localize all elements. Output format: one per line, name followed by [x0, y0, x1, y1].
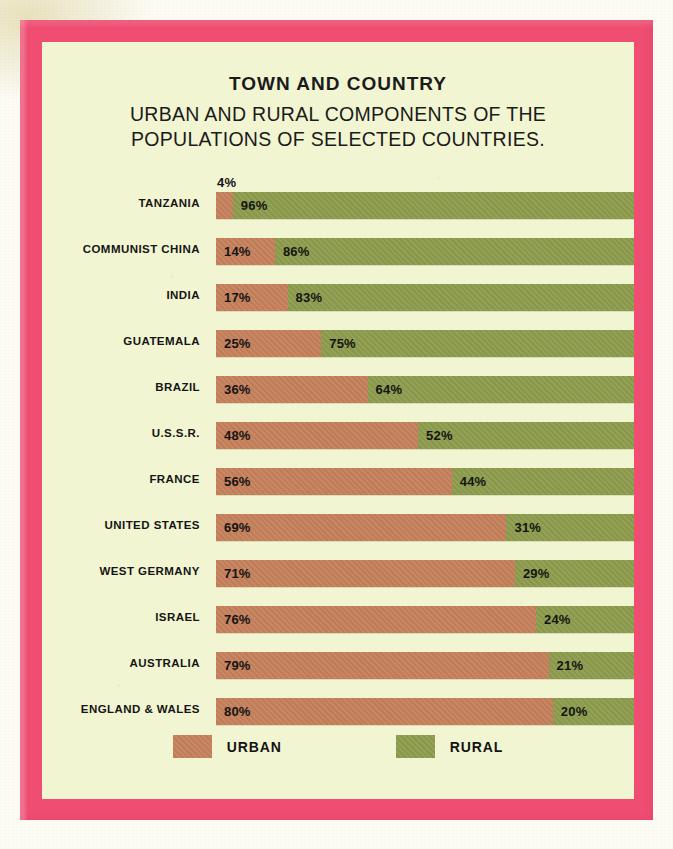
- category-label: UNITED STATES: [42, 519, 200, 531]
- bar-value-urban: 76%: [224, 612, 251, 627]
- bar-segment-urban: 4%: [216, 192, 233, 219]
- legend-swatch-rural-icon: [396, 735, 435, 758]
- bar-segment-rural: 24%: [536, 606, 634, 633]
- bar-segment-rural: 52%: [418, 422, 634, 449]
- bar-value-rural: 20%: [561, 704, 588, 719]
- chart-row: BRAZIL36%64%: [42, 367, 634, 413]
- bar-value-rural: 83%: [296, 290, 323, 305]
- bar-segment-rural: 44%: [452, 468, 634, 495]
- pink-border-frame: TOWN AND COUNTRY URBAN AND RURAL COMPONE…: [20, 20, 653, 820]
- category-label: WEST GERMANY: [42, 565, 200, 577]
- bar-value-rural: 24%: [544, 612, 571, 627]
- bar-segment-rural: 21%: [549, 652, 634, 679]
- bar-value-rural: 52%: [426, 428, 453, 443]
- bar-value-rural: 64%: [376, 382, 403, 397]
- category-label: AUSTRALIA: [42, 657, 200, 669]
- bar-value-urban: 69%: [224, 520, 251, 535]
- chart-row: TANZANIA4%96%: [42, 183, 634, 229]
- bar-segment-urban: 14%: [216, 238, 275, 265]
- chart-row: U.S.S.R.48%52%: [42, 413, 634, 459]
- bar-segment-rural: 29%: [515, 560, 634, 587]
- bar-segment-urban: 25%: [216, 330, 321, 357]
- legend-item-urban: URBAN: [173, 735, 282, 758]
- poster-page: TOWN AND COUNTRY URBAN AND RURAL COMPONE…: [0, 0, 673, 849]
- bar-value-urban: 17%: [224, 290, 251, 305]
- bar-chart: TANZANIA4%96%COMMUNIST CHINA14%86%INDIA1…: [42, 183, 634, 735]
- bar-segment-urban: 48%: [216, 422, 418, 449]
- bar-segment-rural: 20%: [553, 698, 634, 725]
- bar-segment-urban: 36%: [216, 376, 368, 403]
- category-label: COMMUNIST CHINA: [42, 243, 200, 255]
- stacked-bar: 36%64%: [216, 376, 634, 403]
- title-block: TOWN AND COUNTRY URBAN AND RURAL COMPONE…: [42, 73, 634, 152]
- chart-row: AUSTRALIA79%21%: [42, 643, 634, 689]
- bar-segment-rural: 64%: [368, 376, 634, 403]
- bar-segment-urban: 80%: [216, 698, 553, 725]
- bar-value-rural: 86%: [283, 244, 310, 259]
- bar-value-urban: 71%: [224, 566, 251, 581]
- category-label: INDIA: [42, 289, 200, 301]
- category-label: FRANCE: [42, 473, 200, 485]
- stacked-bar: 79%21%: [216, 652, 634, 679]
- legend-item-rural: RURAL: [396, 735, 504, 758]
- bar-value-rural: 44%: [460, 474, 487, 489]
- stacked-bar: 80%20%: [216, 698, 634, 725]
- legend-label-urban: URBAN: [227, 739, 282, 755]
- bar-value-urban: 48%: [224, 428, 251, 443]
- chart-row: ENGLAND & WALES80%20%: [42, 689, 634, 735]
- bar-segment-urban: 69%: [216, 514, 506, 541]
- page-title: TOWN AND COUNTRY: [42, 73, 634, 95]
- category-label: TANZANIA: [42, 197, 200, 209]
- page-subtitle-line2: POPULATIONS OF SELECTED COUNTRIES.: [42, 127, 634, 152]
- bar-segment-urban: 17%: [216, 284, 288, 311]
- chart-row: FRANCE56%44%: [42, 459, 634, 505]
- stacked-bar: 71%29%: [216, 560, 634, 587]
- bar-value-urban: 14%: [224, 244, 251, 259]
- bar-segment-urban: 56%: [216, 468, 452, 495]
- stacked-bar: 69%31%: [216, 514, 634, 541]
- stacked-bar: 76%24%: [216, 606, 634, 633]
- bar-value-rural: 29%: [523, 566, 550, 581]
- chart-row: INDIA17%83%: [42, 275, 634, 321]
- chart-row: WEST GERMANY71%29%: [42, 551, 634, 597]
- bar-segment-urban: 76%: [216, 606, 536, 633]
- chart-legend: URBAN RURAL: [42, 735, 634, 758]
- stacked-bar: 14%86%: [216, 238, 634, 265]
- bar-segment-urban: 71%: [216, 560, 515, 587]
- bar-segment-rural: 83%: [288, 284, 634, 311]
- bar-value-rural: 31%: [514, 520, 541, 535]
- bar-value-urban: 56%: [224, 474, 251, 489]
- category-label: U.S.S.R.: [42, 427, 200, 439]
- bar-value-urban: 36%: [224, 382, 251, 397]
- category-label: ISRAEL: [42, 611, 200, 623]
- category-label: ENGLAND & WALES: [42, 703, 200, 715]
- bar-segment-rural: 86%: [275, 238, 634, 265]
- page-subtitle: URBAN AND RURAL COMPONENTS OF THE POPULA…: [42, 102, 634, 152]
- bar-value-rural: 96%: [241, 198, 268, 213]
- bar-segment-rural: 75%: [321, 330, 634, 357]
- page-subtitle-line1: URBAN AND RURAL COMPONENTS OF THE: [42, 102, 634, 127]
- category-label: GUATEMALA: [42, 335, 200, 347]
- bar-value-urban: 4%: [217, 175, 236, 190]
- stacked-bar: 48%52%: [216, 422, 634, 449]
- bar-segment-rural: 31%: [506, 514, 634, 541]
- stacked-bar: 4%96%: [216, 192, 634, 219]
- stacked-bar: 17%83%: [216, 284, 634, 311]
- chart-panel: TOWN AND COUNTRY URBAN AND RURAL COMPONE…: [42, 42, 634, 799]
- category-label: BRAZIL: [42, 381, 200, 393]
- bar-segment-urban: 79%: [216, 652, 549, 679]
- chart-row: GUATEMALA25%75%: [42, 321, 634, 367]
- stacked-bar: 56%44%: [216, 468, 634, 495]
- stacked-bar: 25%75%: [216, 330, 634, 357]
- bar-segment-rural: 96%: [233, 192, 634, 219]
- bar-value-rural: 75%: [329, 336, 356, 351]
- bar-value-rural: 21%: [557, 658, 584, 673]
- chart-row: UNITED STATES69%31%: [42, 505, 634, 551]
- chart-row: COMMUNIST CHINA14%86%: [42, 229, 634, 275]
- bar-value-urban: 80%: [224, 704, 251, 719]
- legend-label-rural: RURAL: [450, 739, 504, 755]
- bar-value-urban: 25%: [224, 336, 251, 351]
- legend-swatch-urban-icon: [173, 735, 212, 758]
- chart-row: ISRAEL76%24%: [42, 597, 634, 643]
- bar-value-urban: 79%: [224, 658, 251, 673]
